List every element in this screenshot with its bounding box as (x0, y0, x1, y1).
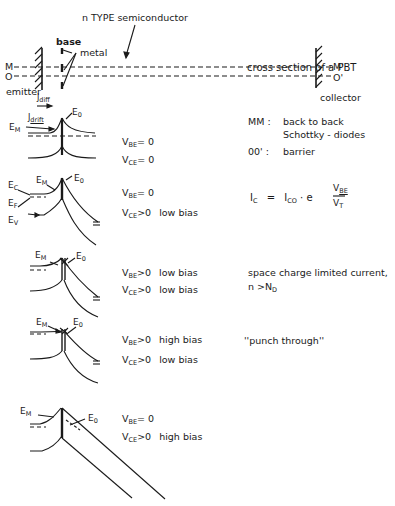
band-diagram-2 (18, 176, 100, 245)
emitter-electrode (35, 47, 42, 90)
condition-3-vbe: VBE>0low bias (122, 268, 198, 278)
oo-key: 00' : (248, 147, 269, 157)
eo-label-4: E0 (73, 318, 83, 327)
em-label-4: EM (36, 318, 47, 327)
note-n-gt-nd: n >ND (248, 282, 277, 292)
ec-label: EC (8, 181, 18, 190)
j-drift-label: Jdrift (28, 114, 44, 122)
note-space-charge: space charge limited current, (248, 268, 388, 278)
condition-4-vbe: VBE>0high bias (122, 335, 202, 345)
condition-3-vce: VCE>0low bias (122, 285, 198, 295)
emitter-label: emitter (6, 87, 41, 97)
condition-5-vbe: VBE= 0 (122, 414, 154, 424)
eo-label-2: E0 (74, 174, 84, 183)
condition-4-vce: VCE>0low bias (122, 355, 198, 365)
base-label: base (56, 37, 81, 47)
note-punch-through: ''punch through'' (244, 336, 324, 346)
em-label-5: EM (20, 407, 31, 416)
eo-label-1: E0 (72, 108, 82, 117)
eo-label-5: E0 (88, 414, 98, 423)
em-label-1: EM (9, 123, 20, 132)
condition-5-vce: VCE>0high bias (122, 432, 202, 442)
band-diagram-3 (30, 258, 100, 317)
eo-label-3: E0 (76, 252, 86, 261)
em-label-2: EM (36, 176, 47, 185)
cross-section-caption: cross section of a PBT (247, 63, 356, 73)
mm-text-2: Schottky - diodes (283, 130, 365, 140)
exponent-denominator: VT (333, 199, 343, 208)
band-diagram-4 (30, 326, 100, 383)
n-type-label: n TYPE semiconductor (82, 13, 188, 23)
oo-text: barrier (283, 147, 315, 157)
mm-text-1: back to back (283, 117, 344, 127)
collector-current-equation: IC = ICO · e (250, 192, 313, 203)
j-diff-label: Jdiff (37, 94, 50, 102)
metal-label: metal (80, 48, 107, 58)
em-label-3: EM (35, 251, 46, 260)
condition-2-vce: VCE>0low bias (122, 208, 198, 218)
condition-1-vbe: VBE= 0 (122, 137, 154, 147)
exponent-numerator: VBE (333, 184, 348, 193)
o-label: O (5, 72, 12, 82)
ef-label: EF (8, 199, 17, 208)
condition-2-vbe: VBE= 0 (122, 188, 154, 198)
condition-1-vce: VCE= 0 (122, 155, 154, 165)
mm-key: MM : (248, 117, 271, 127)
collector-label: collector (320, 93, 361, 103)
o-prime-label: O' (333, 73, 343, 83)
ev-label: EV (8, 216, 18, 225)
